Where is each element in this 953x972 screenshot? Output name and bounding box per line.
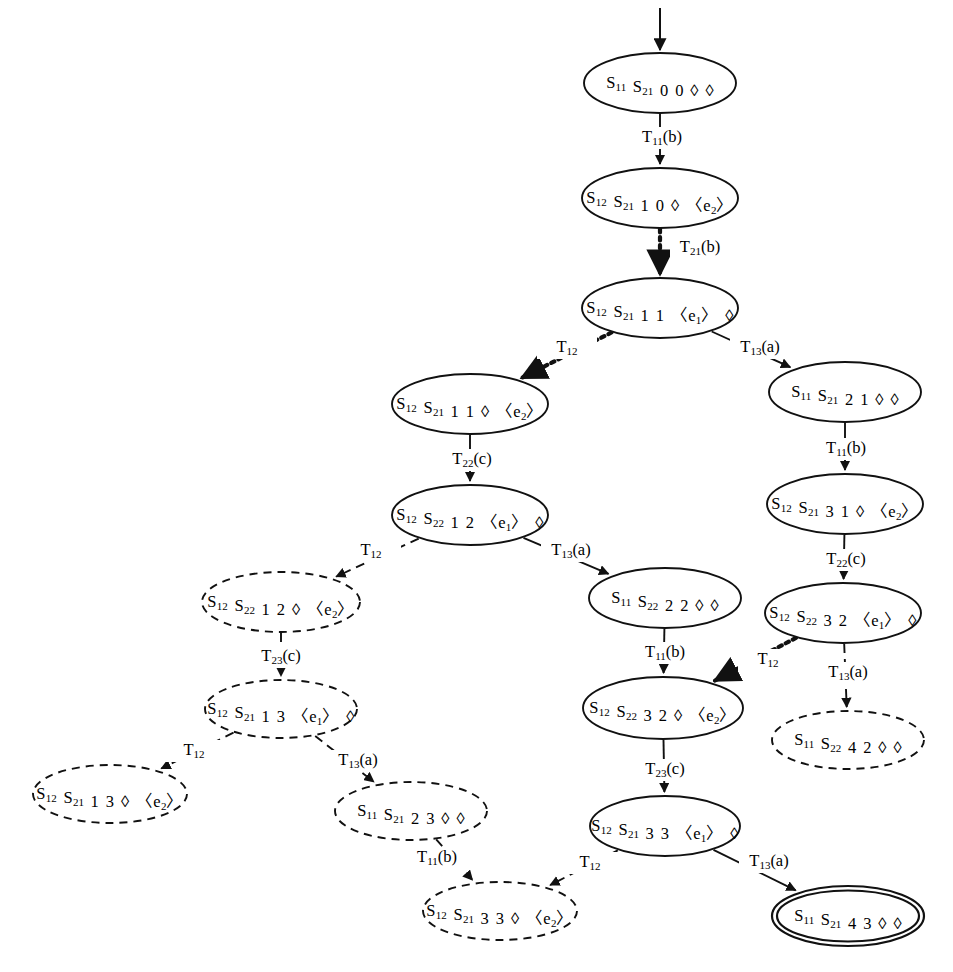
reachability-graph: S11 S21 0 0 ◊ ◊S12 S21 1 0 ◊ 〈e2〉S12 S21… [0, 0, 953, 972]
graph-node[interactable]: S12 S22 3 2 〈e1〉 ◊ [765, 583, 921, 643]
graph-node[interactable]: S11 S22 2 2 ◊ ◊ [589, 568, 741, 628]
graph-canvas: S11 S21 0 0 ◊ ◊S12 S21 1 0 ◊ 〈e2〉S12 S21… [0, 0, 953, 972]
edge-label: T11(b) [826, 438, 866, 458]
graph-node[interactable]: S12 S22 1 2 ◊ 〈e2〉 [202, 572, 360, 632]
node-layer: S11 S21 0 0 ◊ ◊S12 S21 1 0 ◊ 〈e2〉S12 S21… [33, 53, 924, 946]
graph-node[interactable]: S12 S22 3 2 ◊ 〈e2〉 [583, 677, 743, 739]
graph-node[interactable]: S12 S21 1 0 ◊ 〈e2〉 [582, 168, 738, 228]
edge-label: T11(b) [417, 847, 457, 867]
graph-node[interactable]: S12 S21 1 3 〈e1〉 ◊ [205, 680, 357, 738]
graph-node[interactable]: S11 S21 2 1 ◊ ◊ [769, 362, 921, 422]
graph-node[interactable]: S11 S21 4 3 ◊ ◊ [772, 886, 924, 946]
graph-node[interactable]: S12 S21 1 1 〈e1〉 ◊ [582, 278, 738, 338]
graph-node[interactable]: S12 S22 1 2 〈e1〉 ◊ [392, 485, 548, 545]
graph-node[interactable]: S12 S21 1 3 ◊ 〈e2〉 [33, 765, 187, 823]
graph-node[interactable]: S11 S21 0 0 ◊ ◊ [584, 53, 736, 113]
edge-layer [161, 8, 846, 890]
graph-node[interactable]: S12 S21 1 1 ◊ 〈e2〉 [392, 374, 548, 434]
edge-label: T11(b) [642, 127, 682, 147]
graph-node[interactable]: S12 S21 3 3 ◊ 〈e2〉 [423, 882, 577, 940]
edge-label: T11(b) [645, 642, 685, 662]
graph-node[interactable]: S12 S21 3 3 〈e1〉 ◊ [590, 796, 740, 856]
graph-node[interactable]: S12 S21 3 1 ◊ 〈e2〉 [767, 474, 923, 534]
edge-label: T21(b) [680, 237, 720, 257]
graph-node[interactable]: S11 S21 2 3 ◊ ◊ [335, 782, 487, 840]
graph-node[interactable]: S11 S22 4 2 ◊ ◊ [772, 711, 924, 769]
